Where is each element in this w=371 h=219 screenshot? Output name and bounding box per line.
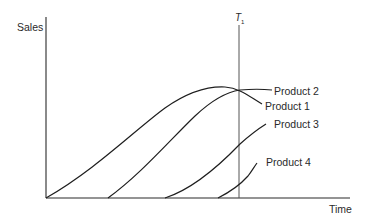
y-axis-label: Sales [17, 22, 43, 33]
product-4-label: Product 4 [266, 157, 311, 168]
x-axis-label: Time [329, 204, 352, 215]
product-1-label: Product 1 [265, 101, 310, 112]
product-4-curve [218, 163, 257, 198]
product-lifecycle-diagram [0, 0, 371, 219]
product-2-curve [108, 89, 272, 198]
product-1-curve [46, 87, 262, 198]
product-3-curve [165, 124, 266, 198]
product-2-label: Product 2 [274, 86, 319, 97]
product-3-label: Product 3 [274, 119, 319, 130]
t1-sub: 1 [241, 19, 244, 25]
t1-marker-label: T1 [235, 13, 244, 25]
